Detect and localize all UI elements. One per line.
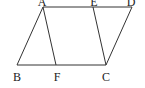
segments bbox=[17, 7, 132, 65]
label-C: C bbox=[102, 70, 110, 84]
label-E: E bbox=[90, 0, 97, 9]
label-F: F bbox=[54, 70, 61, 84]
label-B: B bbox=[13, 70, 21, 84]
label-A: A bbox=[38, 0, 47, 9]
parallelogram-diagram: A E D B F C bbox=[0, 0, 145, 88]
segment-DC bbox=[106, 7, 132, 65]
segment-EC bbox=[93, 7, 106, 65]
segment-AB bbox=[17, 7, 43, 65]
vertex-labels: A E D B F C bbox=[13, 0, 136, 84]
label-D: D bbox=[127, 0, 136, 9]
segment-AF bbox=[43, 7, 56, 65]
